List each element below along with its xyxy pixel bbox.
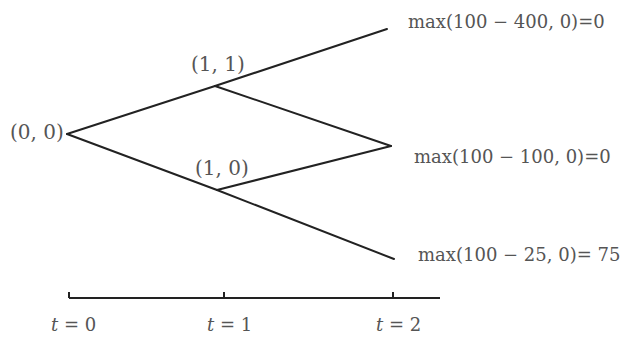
node-label-down: (1, 0) — [195, 158, 249, 178]
time-eq: = 0 — [58, 314, 96, 335]
edge-up-to-mid — [215, 86, 391, 146]
edge-root-to-up — [67, 86, 215, 134]
time-label-t2: t = 2 — [376, 316, 421, 334]
time-eq: = 2 — [383, 314, 421, 335]
node-label-root: (0, 0) — [10, 122, 64, 142]
time-label-t1: t = 1 — [207, 316, 252, 334]
time-label-t0: t = 0 — [51, 316, 96, 334]
time-eq: = 1 — [214, 314, 252, 335]
edge-down-to-downdown — [217, 190, 394, 259]
node-label-up: (1, 1) — [191, 54, 245, 74]
payoff-label-mid: max(100 − 100, 0)=0 — [414, 148, 611, 166]
payoff-label-down: max(100 − 25, 0)= 75 — [418, 246, 620, 264]
payoff-label-up: max(100 − 400, 0)=0 — [408, 13, 605, 31]
